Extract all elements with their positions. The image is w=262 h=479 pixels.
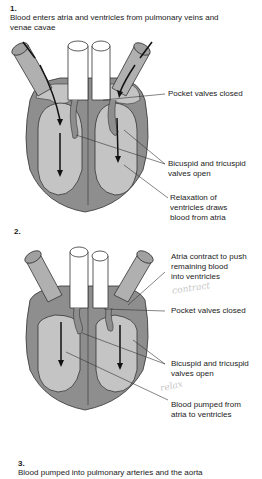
stage-2-label-atria-line3: into ventricles <box>171 272 220 282</box>
stage-1-label-bicuspid-line2: valves open <box>168 169 211 179</box>
stage-2-label-atria-line1: Atria contract to push <box>171 252 247 262</box>
stage-2-label-atria-line2: remaining blood <box>171 262 228 272</box>
stage-2-label-pumped-line1: Blood pumped from <box>171 400 241 410</box>
stage-2-label-bicuspid-line1: Bicuspid and tricuspid <box>171 359 249 369</box>
stage-3-caption: Blood pumped into pulmonary arteries and… <box>18 468 203 478</box>
stage-2-label-bicuspid-line2: valves open <box>171 369 214 379</box>
stage-2-number: 2. <box>14 227 21 236</box>
heart-stage-2 <box>23 247 168 410</box>
stage-1-label-relaxation-line2: ventricles draws <box>170 203 227 213</box>
stage-1-label-relaxation-line3: blood from atria <box>170 213 226 223</box>
stage-1-label-relaxation-line1: Relaxation of <box>170 193 217 203</box>
stage-1-label-bicuspid-line1: Bicuspid and tricuspid <box>168 159 246 169</box>
stage-2-label-pumped-line2: atria to ventricles <box>171 410 231 420</box>
stage-3-number: 3. <box>18 459 25 468</box>
stage-1-label-pocket-valves: Pocket valves closed <box>168 89 243 99</box>
stage-2-label-pocket-valves: Pocket valves closed <box>171 306 246 316</box>
heart-stage-1 <box>10 40 168 212</box>
